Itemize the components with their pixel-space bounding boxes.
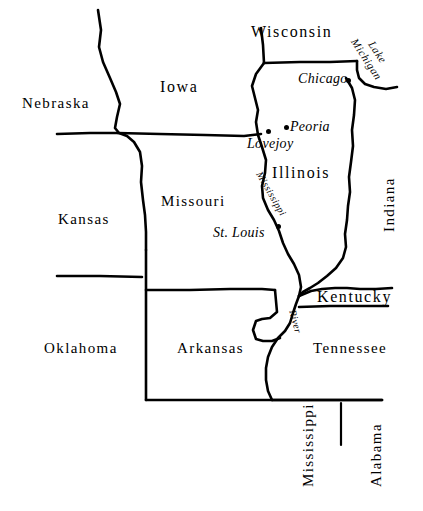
map-borders-svg (0, 0, 423, 511)
nebraska-kansas-border (57, 133, 118, 134)
city-label-chicago: Chicago (298, 72, 348, 86)
state-label-oklahoma: Oklahoma (44, 341, 118, 356)
state-label-wisconsin: Wisconsin (251, 24, 332, 40)
iowa-missouri-border (118, 133, 261, 136)
state-label-kansas: Kansas (58, 212, 110, 227)
missouri-bootheel (253, 290, 280, 341)
city-dot-lovejoy (266, 129, 271, 134)
state-label-missouri: Missouri (161, 194, 226, 209)
map-canvas: Wisconsin Iowa Nebraska Illinois Missour… (0, 0, 423, 511)
wisconsin-illinois-border (264, 61, 357, 63)
state-label-alabama: Alabama (369, 423, 384, 487)
missouri-arkansas-border (146, 250, 275, 290)
state-label-arkansas: Arkansas (177, 341, 244, 356)
city-label-peoria: Peoria (290, 120, 330, 134)
city-label-lovejoy: Lovejoy (247, 137, 293, 151)
city-dot-st-louis (276, 224, 281, 229)
state-label-indiana: Indiana (382, 177, 397, 232)
city-label-st-louis: St. Louis (213, 226, 265, 240)
illinois-indiana-border (299, 78, 355, 296)
city-dot-chicago (346, 78, 351, 83)
state-label-nebraska: Nebraska (22, 96, 90, 111)
state-label-mississippi: Mississippi (301, 403, 316, 487)
state-label-illinois: Illinois (272, 165, 330, 181)
kentucky-tennessee-border (299, 306, 388, 307)
kansas-oklahoma-border (57, 276, 142, 277)
state-label-iowa: Iowa (160, 79, 198, 95)
state-label-tennessee: Tennessee (313, 341, 387, 356)
state-label-kentucky: Kentucky (317, 289, 392, 305)
city-dot-peoria (284, 125, 289, 130)
